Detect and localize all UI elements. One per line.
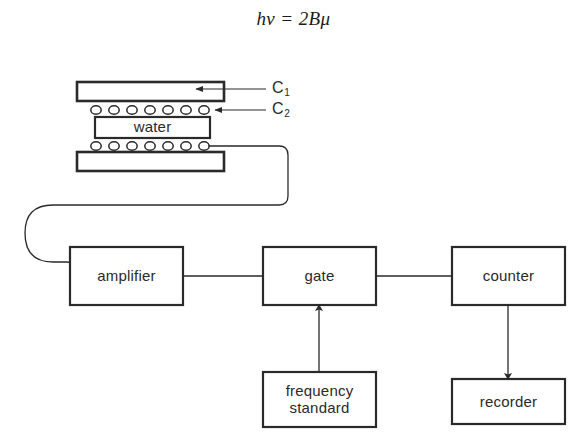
block-gate[interactable] [263, 247, 376, 305]
figure-canvas: hv = 2Bμ [0, 0, 587, 437]
block-recorder[interactable] [452, 379, 565, 424]
coil-bottom [91, 142, 209, 151]
plate-bottom [77, 152, 224, 171]
block-amplifier[interactable] [70, 247, 183, 305]
block-frequency-standard[interactable] [263, 372, 376, 427]
block-counter[interactable] [452, 247, 565, 305]
apparatus-block-diagram [0, 0, 587, 437]
coil-top-c2 [91, 106, 209, 115]
sample-box-water [95, 117, 210, 138]
plate-top-c1 [77, 82, 224, 101]
